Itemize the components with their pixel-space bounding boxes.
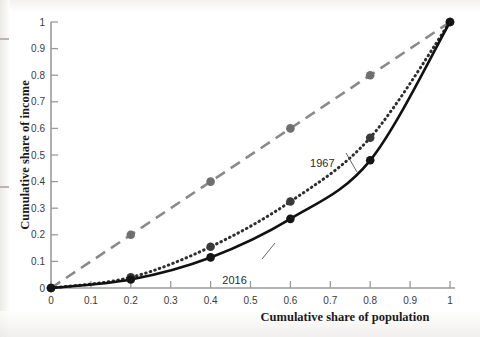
y-axis-tick-labels: 00.10.20.30.40.50.60.70.80.91 bbox=[31, 17, 45, 294]
x-tick-label-0.5: 0.5 bbox=[244, 295, 258, 306]
leader-line-1967 bbox=[346, 153, 357, 172]
x-tick-label-0: 0 bbox=[48, 295, 54, 306]
data-point-line-of-equality-x0.4 bbox=[206, 177, 215, 186]
x-tick-label-0.6: 0.6 bbox=[283, 295, 297, 306]
data-series-group bbox=[47, 18, 455, 293]
x-tick-label-0.2: 0.2 bbox=[124, 295, 138, 306]
data-point-2016-x1 bbox=[446, 18, 455, 27]
data-point-1967-x0.6 bbox=[286, 197, 295, 206]
x-axis-title: Cumulative share of population bbox=[261, 310, 430, 324]
data-point-2016-x0 bbox=[47, 284, 56, 293]
label-2016: 2016 bbox=[222, 274, 246, 286]
label-1967: 1967 bbox=[310, 157, 334, 169]
data-point-line-of-equality-x0.6 bbox=[286, 124, 295, 133]
data-point-1967-x0.8 bbox=[366, 133, 375, 142]
x-axis-tick-labels: 00.10.20.30.40.50.60.70.80.91 bbox=[48, 295, 453, 306]
y-tick-label-0.4: 0.4 bbox=[31, 176, 45, 187]
x-tick-label-1: 1 bbox=[447, 295, 453, 306]
chart-page: 00.10.20.30.40.50.60.70.80.91 00.10.20.3… bbox=[0, 0, 480, 337]
data-point-line-of-equality-x0.8 bbox=[366, 71, 375, 80]
x-tick-label-0.3: 0.3 bbox=[164, 295, 178, 306]
y-tick-label-0.6: 0.6 bbox=[31, 123, 45, 134]
y-tick-label-1: 1 bbox=[39, 17, 45, 28]
data-point-line-of-equality-x0.2 bbox=[127, 231, 136, 240]
x-tick-label-0.7: 0.7 bbox=[323, 295, 337, 306]
series-line-line-of-equality bbox=[51, 22, 450, 288]
lorenz-curve-chart: 00.10.20.30.40.50.60.70.80.91 00.10.20.3… bbox=[0, 0, 480, 337]
y-axis-title: Cumulative share of income bbox=[18, 80, 32, 230]
x-tick-label-0.9: 0.9 bbox=[403, 295, 417, 306]
y-axis-ticks bbox=[51, 22, 58, 288]
x-tick-label-0.8: 0.8 bbox=[363, 295, 377, 306]
data-point-2016-x0.8 bbox=[366, 156, 375, 165]
series-line-of-equality bbox=[47, 18, 455, 293]
y-tick-label-0.7: 0.7 bbox=[31, 96, 45, 107]
leader-line-2016 bbox=[262, 243, 275, 259]
x-tick-label-0.4: 0.4 bbox=[204, 295, 218, 306]
y-tick-label-0.8: 0.8 bbox=[31, 70, 45, 81]
y-tick-label-0.2: 0.2 bbox=[31, 229, 45, 240]
y-tick-label-0.5: 0.5 bbox=[31, 150, 45, 161]
data-point-2016-x0.2 bbox=[127, 275, 136, 284]
annotation-labels: 19672016 bbox=[222, 157, 334, 286]
data-point-2016-x0.4 bbox=[206, 253, 215, 262]
y-tick-label-0.3: 0.3 bbox=[31, 203, 45, 214]
y-tick-label-0: 0 bbox=[39, 283, 45, 294]
y-tick-label-0.1: 0.1 bbox=[31, 256, 45, 267]
data-point-1967-x0.4 bbox=[206, 242, 215, 251]
data-point-2016-x0.6 bbox=[286, 215, 295, 224]
y-tick-label-0.9: 0.9 bbox=[31, 43, 45, 54]
x-tick-label-0.1: 0.1 bbox=[84, 295, 98, 306]
